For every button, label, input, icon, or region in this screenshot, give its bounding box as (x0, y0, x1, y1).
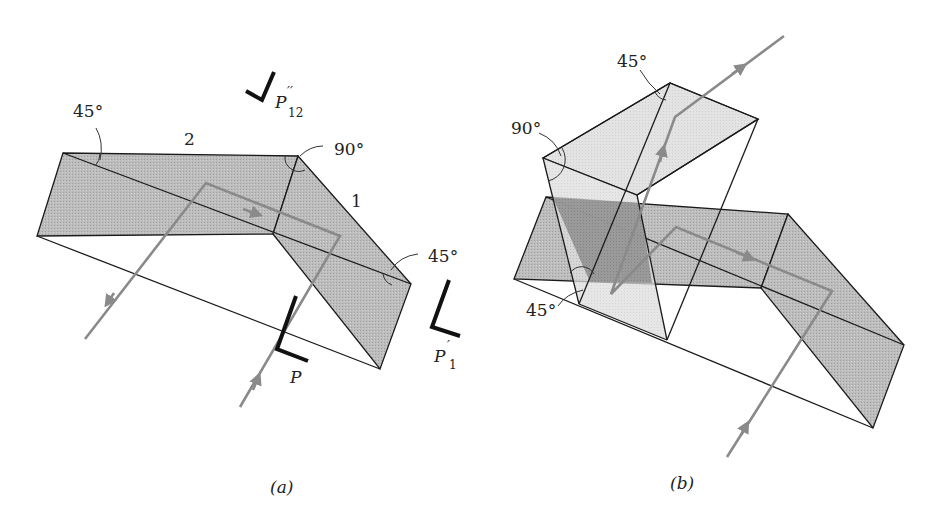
polarization-label-p1-prime: P ′ 1 (433, 338, 457, 372)
caption-a: (a) (270, 477, 293, 497)
face-label-2: 2 (184, 129, 195, 149)
svg-text:P: P (433, 346, 446, 366)
ray-arrow-out (108, 293, 114, 302)
ray-arrow-out (732, 67, 742, 74)
figure-a: 45° 90° 45° 2 1 P P ′ 1 P ′′ 12 (a) (37, 72, 460, 497)
polarization-label-p: P (289, 367, 302, 387)
polarization-marker-p (277, 296, 308, 361)
svg-text:P: P (274, 92, 287, 112)
prism-diagram: 45° 90° 45° 2 1 P P ′ 1 P ′′ 12 (a) (0, 0, 952, 525)
angle-label-45-upper-top: 45° (617, 51, 647, 71)
svg-text:′′: ′′ (287, 84, 293, 99)
svg-text:12: 12 (288, 106, 303, 120)
angle-label-45-lower-left: 45° (526, 300, 556, 320)
angle-label-45-right: 45° (428, 246, 458, 266)
lower-prism-face-right (761, 214, 904, 428)
svg-text:′: ′ (447, 338, 450, 353)
face-label-1: 1 (351, 191, 362, 211)
prism-face-2 (37, 153, 298, 236)
figure-b: 45° 90° 45° (b) (511, 36, 904, 493)
angle-label-45-top-left: 45° (73, 101, 103, 121)
polarization-label-p12-double-prime: P ′′ 12 (274, 84, 303, 120)
polarization-marker-p12-double-prime (246, 72, 274, 100)
angle-label-90-upper-left: 90° (511, 118, 541, 138)
prism-face-1 (273, 156, 411, 369)
polarization-marker-p1-prime (432, 280, 460, 336)
angle-label-90: 90° (334, 139, 364, 159)
caption-b: (b) (670, 473, 694, 493)
angle-leader-90 (300, 146, 323, 156)
svg-text:1: 1 (449, 358, 457, 372)
